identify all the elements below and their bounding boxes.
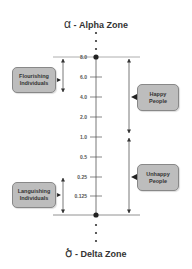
- tick-label-2: 2.0: [57, 114, 87, 120]
- delta-zone-title: ծ - Delta Zone: [0, 246, 192, 260]
- top-ellipsis-dots: [95, 32, 97, 50]
- unhappy-people-box: UnhappyPeople: [137, 164, 179, 191]
- bottom-ellipsis-dots: [95, 224, 97, 242]
- tick-label-0-25: 0.25: [57, 174, 87, 180]
- tick-label-1: 1.0: [57, 134, 87, 140]
- bottom-dot: [93, 212, 98, 217]
- happy-line1: Happy: [150, 91, 167, 97]
- flourishing-individuals-box: FlourishingIndividuals: [12, 67, 56, 93]
- flourishing-line2: Individuals: [20, 80, 49, 86]
- languishing-line1: Languishing: [18, 188, 51, 194]
- delta-zone-label: - Delta Zone: [72, 249, 126, 259]
- happy-people-box: HappyPeople: [137, 84, 179, 111]
- happy-line2: People: [149, 98, 167, 104]
- languishing-line2: Individuals: [20, 195, 49, 201]
- tick-label-8: 8.0: [57, 54, 87, 60]
- languishing-individuals-box: LanguishingIndividuals: [12, 182, 56, 208]
- diagram-lines: [0, 0, 192, 269]
- unhappy-line2: People: [149, 178, 167, 184]
- tick-label-0-5: 0.5: [57, 154, 87, 160]
- tick-label-6: 6.0: [57, 74, 87, 80]
- tick-label-4: 4.0: [57, 94, 87, 100]
- flourishing-line1: Flourishing: [19, 73, 49, 79]
- unhappy-line1: Unhappy: [146, 171, 170, 177]
- top-dot: [93, 54, 98, 59]
- tick-label-0-125: 0.125: [57, 193, 87, 199]
